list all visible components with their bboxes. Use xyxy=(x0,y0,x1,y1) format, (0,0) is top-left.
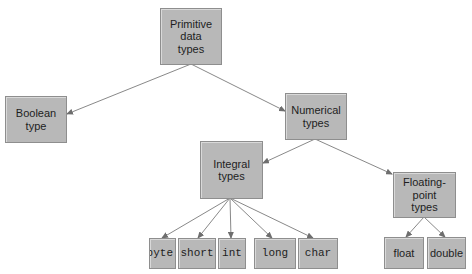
node-long: long xyxy=(254,238,296,269)
edge-floating-float xyxy=(406,217,424,237)
node-label: Integral types xyxy=(213,158,250,183)
node-floating-point-types: Floating- point types xyxy=(393,172,456,218)
edge-integral-short xyxy=(198,198,230,238)
edge-integral-byte xyxy=(162,198,230,238)
node-label: int xyxy=(222,247,242,260)
node-short: short xyxy=(178,238,216,269)
node-numerical-types: Numerical types xyxy=(285,93,347,140)
edge-numerical-floating xyxy=(315,139,392,174)
node-float: float xyxy=(384,237,424,269)
node-label: short xyxy=(180,247,213,260)
edge-primitive-boolean xyxy=(67,64,191,114)
node-label: char xyxy=(305,247,331,260)
node-label: float xyxy=(394,247,415,260)
node-label: Numerical types xyxy=(291,104,341,129)
node-label: byte xyxy=(149,247,175,260)
edge-numerical-integral xyxy=(263,139,315,163)
node-byte: byte xyxy=(149,238,176,269)
node-char: char xyxy=(298,238,338,269)
edge-integral-int xyxy=(230,198,231,238)
node-label: long xyxy=(262,247,288,260)
edge-primitive-numerical xyxy=(191,64,285,111)
node-int: int xyxy=(218,238,246,269)
node-double: double xyxy=(427,237,466,269)
edge-layer xyxy=(0,0,472,274)
node-label: double xyxy=(430,247,463,260)
edge-floating-double xyxy=(424,217,445,237)
node-label: Boolean type xyxy=(16,107,56,132)
node-primitive-data-types: Primitive data types xyxy=(160,8,222,65)
node-boolean-type: Boolean type xyxy=(5,96,67,143)
edge-integral-char xyxy=(230,198,313,238)
edge-integral-long xyxy=(230,198,272,238)
node-label: Primitive data types xyxy=(170,18,212,56)
node-integral-types: Integral types xyxy=(200,141,263,199)
node-label: Floating- point types xyxy=(403,176,446,214)
